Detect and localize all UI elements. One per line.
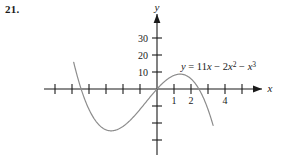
x-axis-label: x — [267, 82, 273, 94]
y-axis-label: y — [154, 1, 160, 13]
y-axis-arrow-icon — [154, 14, 161, 23]
graph-figure: 10 20 30 1 2 4 x y y = 11x − 2x2 − x3 — [0, 0, 281, 166]
x-tick-label-1: 1 — [172, 95, 177, 106]
x-axis-arrow-icon — [253, 86, 262, 93]
y-tick-label-20: 20 — [138, 50, 148, 61]
x-tick-label-2: 2 — [189, 95, 194, 106]
equation-annotation: y = 11x − 2x2 − x3 — [180, 60, 256, 73]
y-tick-label-10: 10 — [138, 67, 148, 78]
x-tick-label-4: 4 — [223, 95, 228, 106]
figure-page: 21. — [0, 0, 281, 166]
y-tick-label-30: 30 — [138, 33, 148, 44]
